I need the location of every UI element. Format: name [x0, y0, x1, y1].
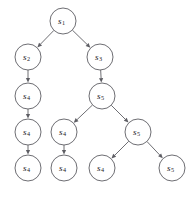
- tree-node-s3[interactable]: s3: [87, 44, 113, 70]
- state-transition-tree-figure: s1s2s3s4s5s4s4s5s4s4s4s5: [0, 0, 195, 198]
- edge-n5-n8: [111, 105, 128, 122]
- node-subscript: 5: [137, 130, 140, 137]
- node-subscript: 4: [63, 166, 66, 173]
- node-subscript: 3: [99, 55, 102, 62]
- edge-n1-n3: [72, 30, 90, 48]
- tree-node-s4[interactable]: s4: [15, 155, 41, 181]
- node-subscript: 4: [27, 130, 30, 137]
- tree-node-s4[interactable]: s4: [15, 119, 41, 145]
- edge-n1-n2: [37, 30, 54, 47]
- tree-node-s4[interactable]: s4: [89, 155, 115, 181]
- tree-node-s5[interactable]: s5: [159, 155, 185, 181]
- arrow-head-icon: [26, 114, 30, 119]
- node-subscript: 1: [62, 19, 65, 26]
- tree-node-s1[interactable]: s1: [50, 8, 76, 34]
- edge-line: [77, 105, 92, 120]
- node-subscript: 5: [171, 166, 174, 173]
- node-subscript: 4: [27, 166, 30, 173]
- node-subscript: 4: [101, 166, 104, 173]
- edge-n8-n12: [147, 141, 163, 158]
- edge-n8-n11: [111, 141, 128, 158]
- arrow-head-icon: [99, 78, 103, 83]
- edge-line: [147, 141, 160, 154]
- edge-line: [115, 141, 129, 155]
- edge-line: [111, 105, 125, 119]
- edge-n6-n9: [26, 145, 30, 155]
- tree-node-s2[interactable]: s2: [15, 44, 41, 70]
- figure-caption: [0, 189, 195, 198]
- tree-canvas: s1s2s3s4s5s4s4s5s4s4s4s5: [0, 0, 195, 198]
- tree-node-s5[interactable]: s5: [89, 83, 115, 109]
- arrow-head-icon: [26, 150, 30, 155]
- edge-n5-n7: [74, 105, 93, 123]
- edge-n4-n6: [26, 109, 30, 119]
- node-subscript: 2: [27, 55, 30, 62]
- tree-node-s4[interactable]: s4: [15, 83, 41, 109]
- edge-line: [72, 30, 87, 44]
- tree-node-s4[interactable]: s4: [51, 119, 77, 145]
- node-subscript: 4: [63, 130, 66, 137]
- arrow-head-icon: [26, 78, 30, 83]
- node-subscript: 4: [27, 94, 30, 101]
- edge-line: [41, 30, 54, 44]
- tree-node-s4[interactable]: s4: [51, 155, 77, 181]
- arrow-head-icon: [62, 150, 66, 155]
- edge-n7-n10: [62, 145, 66, 155]
- edge-n2-n4: [26, 70, 30, 83]
- tree-node-s5[interactable]: s5: [125, 119, 151, 145]
- node-subscript: 5: [101, 94, 104, 101]
- edge-n3-n5: [99, 70, 103, 83]
